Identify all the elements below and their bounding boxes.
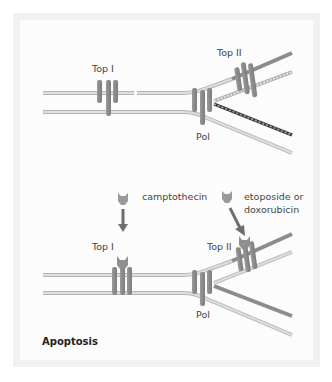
etoposide-label: etoposide or [244,191,304,202]
arrow-down-icon [118,209,128,232]
pol-label-2: Pol [196,309,210,320]
top1-label: Top I [91,63,114,74]
dna-bottom-strand [43,112,292,153]
camptothecin-label: camptothecin [142,191,207,202]
bottom-panel: camptothecin etoposide or doxorubicin [42,191,304,347]
top2-label-2: Top II [206,241,232,252]
etoposide-drug-icon [222,191,232,203]
pol-label: Pol [196,131,210,142]
replication-diagram: Top I Pol Top II camptothecin e [0,0,332,382]
new-strand-lower [214,104,292,135]
doxorubicin-label: doxorubicin [244,204,299,215]
arrow-diagonal-icon [230,208,245,236]
dna-bottom-strand-2 [43,293,292,335]
new-strand-lower-2 [214,286,292,316]
apoptosis-label: Apoptosis [42,336,98,347]
top1-label-2: Top I [91,241,114,252]
top2-label: Top II [216,47,242,58]
camptothecin-drug-icon [118,193,128,205]
top-panel: Top I Pol Top II [43,47,292,153]
topoisomerase-1-drug-complex [112,256,132,295]
topoisomerase-2-drug-complex [235,236,258,273]
